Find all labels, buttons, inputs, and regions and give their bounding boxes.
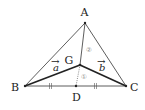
label-G: G xyxy=(65,54,74,67)
point-D-dot xyxy=(75,85,77,87)
triangle-centroid-diagram: A B C D G → a → b ② ① xyxy=(0,0,145,110)
ratio-GD-label: ① xyxy=(81,73,87,81)
point-A-dot xyxy=(84,22,86,24)
point-B-dot xyxy=(24,85,26,87)
vector-b-label: b xyxy=(99,62,105,73)
segment-GD xyxy=(76,65,80,86)
point-C-dot xyxy=(125,85,127,87)
side-AB xyxy=(25,23,85,86)
label-A: A xyxy=(80,6,90,19)
label-B: B xyxy=(11,81,19,94)
label-C: C xyxy=(130,81,138,94)
vector-a-label: a xyxy=(53,62,59,73)
ratio-AG-label: ② xyxy=(86,46,92,54)
point-G-dot xyxy=(79,64,82,67)
label-D: D xyxy=(72,91,81,104)
segment-AG xyxy=(80,23,85,65)
